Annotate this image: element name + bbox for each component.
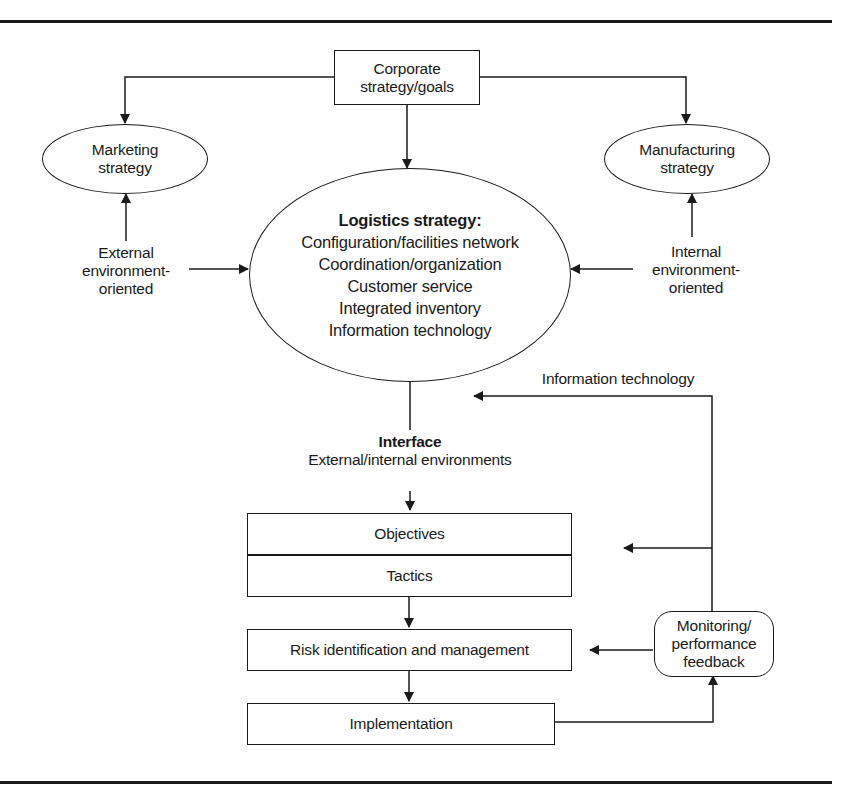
logistics-strategy-ellipse: Logistics strategy: Configuration/facili… xyxy=(249,168,571,382)
logistics-item: Coordination/organization xyxy=(318,253,501,275)
corporate-line1: Corporate xyxy=(373,60,440,78)
objectives-tactics-box: Objectives Tactics xyxy=(247,513,572,597)
logistics-item: Customer service xyxy=(347,275,472,297)
internal-line1: Internal xyxy=(630,243,762,261)
manufacturing-line2: strategy xyxy=(660,159,714,177)
internal-environment-label: Internal environment- oriented xyxy=(630,243,762,297)
implementation-box: Implementation xyxy=(247,703,555,745)
information-technology-label: Information technology xyxy=(518,370,718,388)
monitoring-line2: performance xyxy=(672,635,757,653)
external-line3: oriented xyxy=(58,280,194,298)
manufacturing-line1: Manufacturing xyxy=(639,141,735,159)
external-line1: External xyxy=(58,244,194,262)
interface-label: Interface External/internal environments xyxy=(270,433,550,469)
interface-title: Interface xyxy=(270,433,550,451)
interface-subtitle: External/internal environments xyxy=(270,451,550,469)
external-environment-label: External environment- oriented xyxy=(58,244,194,298)
internal-line2: environment- xyxy=(630,261,762,279)
logistics-item: Information technology xyxy=(329,319,492,341)
objectives-cell: Objectives xyxy=(248,514,571,554)
logistics-item: Integrated inventory xyxy=(339,297,481,319)
corporate-line2: strategy/goals xyxy=(360,78,454,96)
monitoring-line3: feedback xyxy=(683,653,744,671)
marketing-line1: Marketing xyxy=(92,141,158,159)
marketing-strategy-ellipse: Marketing strategy xyxy=(42,124,208,194)
tactics-cell: Tactics xyxy=(248,556,571,596)
monitoring-line1: Monitoring/ xyxy=(677,617,751,635)
logistics-title: Logistics strategy: xyxy=(339,209,482,231)
corporate-strategy-box: Corporate strategy/goals xyxy=(334,50,480,105)
logistics-item: Configuration/facilities network xyxy=(301,231,518,253)
risk-management-box: Risk identification and management xyxy=(247,629,572,671)
implementation-label: Implementation xyxy=(349,715,452,733)
marketing-line2: strategy xyxy=(98,159,152,177)
manufacturing-strategy-ellipse: Manufacturing strategy xyxy=(604,124,770,194)
monitoring-feedback-box: Monitoring/ performance feedback xyxy=(654,611,774,677)
external-line2: environment- xyxy=(58,262,194,280)
risk-label: Risk identification and management xyxy=(290,641,529,659)
internal-line3: oriented xyxy=(630,279,762,297)
connector-lines xyxy=(0,0,844,809)
